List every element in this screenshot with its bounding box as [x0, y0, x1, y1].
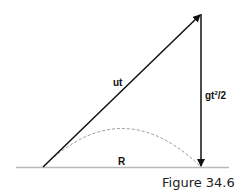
drop-label-suffix: /2	[218, 90, 226, 101]
figure-caption: Figure 34.6	[162, 175, 235, 190]
ut-label: ut	[113, 77, 122, 88]
ut-vector-arrow	[43, 15, 200, 167]
gt-squared-over-2-label: gt2/2	[205, 90, 226, 101]
range-label: R	[118, 156, 125, 167]
